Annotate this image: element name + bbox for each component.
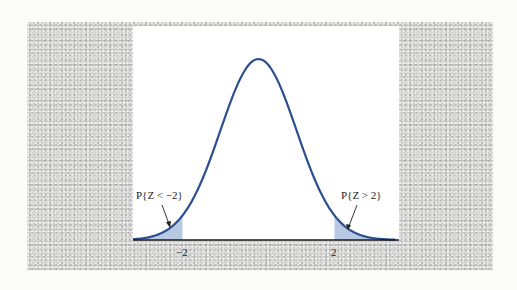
left-tail-label: P{Z < −2} — [136, 189, 183, 201]
normal-curve-plot — [0, 0, 517, 290]
plot-area — [133, 26, 399, 240]
tick-label-2: 2 — [331, 246, 337, 258]
tick-label-minus-2: −2 — [176, 246, 188, 258]
right-tail-label: P{Z > 2} — [341, 189, 382, 201]
